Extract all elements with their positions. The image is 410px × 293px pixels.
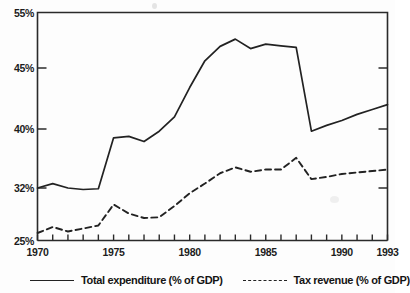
x-axis-tick-label: 1985 bbox=[244, 246, 288, 258]
series-line-total-expenditure bbox=[38, 39, 388, 189]
legend-item-total-expenditure: Total expenditure (% of GDP) bbox=[30, 274, 223, 286]
legend-label-tax-revenue: Tax revenue (% of GDP) bbox=[294, 274, 410, 286]
x-axis-tick-label: 1980 bbox=[168, 246, 212, 258]
legend-swatch-dashed-icon bbox=[243, 280, 287, 281]
y-axis-tick-label: 55% bbox=[0, 7, 34, 19]
x-axis-tick-label: 1993 bbox=[366, 246, 410, 258]
y-axis-tick-label: 45% bbox=[0, 62, 34, 74]
y-axis-tick-label: 40% bbox=[0, 123, 34, 135]
x-axis-tick-label: 1975 bbox=[92, 246, 136, 258]
x-axis-tick-label: 1990 bbox=[320, 246, 364, 258]
legend-label-total-expenditure: Total expenditure (% of GDP) bbox=[81, 274, 223, 286]
y-axis-tick-label: 32% bbox=[0, 182, 34, 194]
legend-swatch-solid-icon bbox=[30, 280, 74, 281]
series-line-tax-revenue bbox=[38, 158, 388, 233]
x-axis-tick-label: 1970 bbox=[16, 246, 60, 258]
chart-legend: Total expenditure (% of GDP) Tax revenue… bbox=[30, 270, 390, 290]
legend-item-tax-revenue: Tax revenue (% of GDP) bbox=[243, 274, 410, 286]
